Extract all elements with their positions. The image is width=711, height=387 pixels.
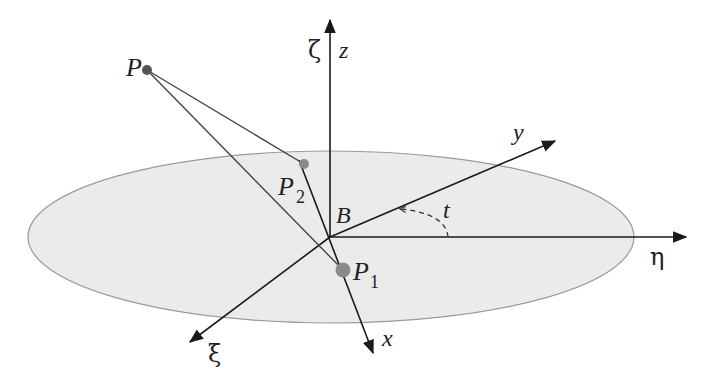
label-B: B <box>336 202 351 228</box>
label-x: x <box>381 325 393 351</box>
label-P1: P <box>352 257 369 286</box>
label-xi: ξ <box>208 340 221 368</box>
label-z: z <box>338 37 349 63</box>
label-zeta: ζ <box>308 36 321 64</box>
label-P2-sub: 2 <box>296 187 305 207</box>
point-P <box>142 65 152 75</box>
point-P1 <box>336 263 351 278</box>
label-P: P <box>125 53 142 82</box>
label-P2: P <box>277 172 294 201</box>
label-eta: η <box>650 243 664 271</box>
diagram-svg: P P 2 P 1 B t x y z ζ η ξ <box>0 0 711 387</box>
coordinate-diagram: P P 2 P 1 B t x y z ζ η ξ <box>0 0 711 387</box>
label-P1-sub: 1 <box>370 272 379 292</box>
label-y: y <box>511 119 524 145</box>
point-P2 <box>299 159 309 169</box>
